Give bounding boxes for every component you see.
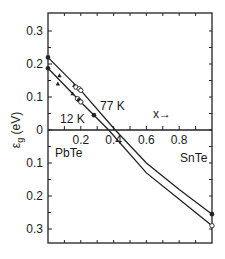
x-tick-label: 0.6 xyxy=(138,133,155,147)
open-circle-marker xyxy=(79,88,83,92)
filled-triangle-marker xyxy=(57,73,61,77)
filled-circle-marker xyxy=(92,113,97,118)
open-circle-marker xyxy=(210,224,214,228)
label-77k: 77 K xyxy=(100,99,125,113)
y-tick-label: 0.1 xyxy=(26,156,43,170)
band-gap-chart: 0.20.40.60.80.30.20.100.10.20.3εg (eV) 7… xyxy=(0,0,225,259)
y-tick-label: 0.1 xyxy=(26,90,43,104)
label-snte: SnTe xyxy=(180,151,208,165)
filled-circle-marker xyxy=(46,55,51,60)
label-x-arrow: x→ xyxy=(153,107,171,121)
label-12k: 12 K xyxy=(60,112,85,126)
open-circle-marker xyxy=(79,100,83,104)
filled-circle-marker xyxy=(46,66,51,71)
axis-ticks xyxy=(48,13,212,243)
y-axis-label: εg (eV) xyxy=(9,112,25,148)
filled-circle-marker xyxy=(210,212,215,217)
label-pbte: PbTe xyxy=(55,146,83,160)
y-tick-label: 0.2 xyxy=(26,189,43,203)
y-tick-label: 0.2 xyxy=(26,57,43,71)
filled-triangle-marker xyxy=(56,82,60,86)
y-tick-label: 0.3 xyxy=(26,222,43,236)
y-tick-label: 0.3 xyxy=(26,24,43,38)
x-tick-label: 0.8 xyxy=(171,133,188,147)
y-tick-label: 0 xyxy=(36,123,43,137)
x-tick-label: 0.2 xyxy=(72,133,89,147)
